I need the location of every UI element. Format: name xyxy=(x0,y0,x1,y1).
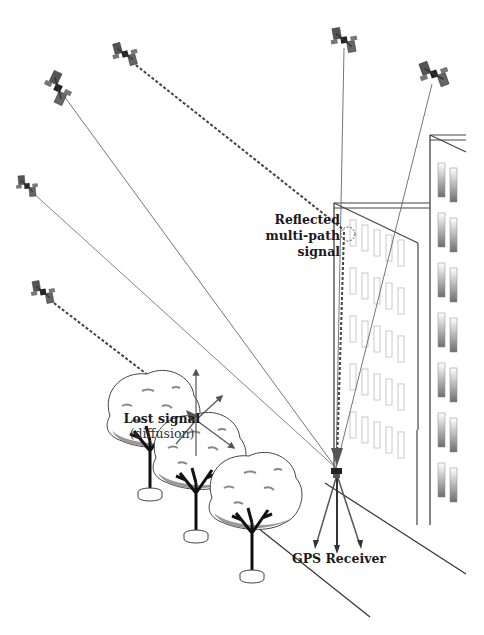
satellite-icon xyxy=(15,174,38,197)
building-back-windows xyxy=(438,163,457,502)
reflected-label-line-2: multi-path xyxy=(266,228,340,243)
building-front-windows xyxy=(350,220,404,458)
diffusion-label: (diffusion) xyxy=(130,426,195,441)
building-front xyxy=(334,203,430,470)
satellite-icon xyxy=(416,56,453,93)
trees xyxy=(107,370,302,583)
satellite-icon xyxy=(29,278,57,306)
satellite-icon xyxy=(110,39,141,70)
signal-lines xyxy=(32,48,432,468)
reflected-label-line-1: Reflected xyxy=(275,212,341,227)
gps-multipath-diagram: Reflected multi-path signal Lost signal … xyxy=(0,0,484,635)
reflected-signal-incoming xyxy=(132,62,344,230)
reflected-label-line-3: signal xyxy=(298,244,341,259)
gps-receiver xyxy=(313,468,363,554)
building-back-right xyxy=(417,135,466,525)
tree-3 xyxy=(209,452,302,583)
lost-signal-label: Lost signal xyxy=(124,411,201,426)
gps-receiver-label: GPS Receiver xyxy=(292,551,386,566)
satellite-icon xyxy=(39,69,77,107)
